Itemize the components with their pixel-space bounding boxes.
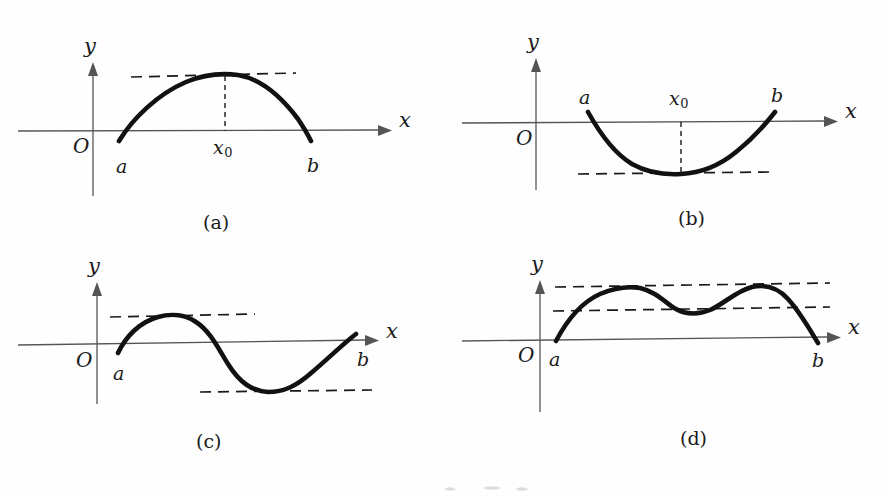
panel-a-critical-sub: 0 [224, 145, 232, 160]
panel-c-endpoint-b-label: b [357, 350, 369, 369]
panel-b-graphics [462, 58, 838, 190]
panel-a-origin-label: O [73, 136, 89, 156]
panel-b-x-axis-label: x [845, 101, 857, 122]
panel-d-x-axis [462, 337, 827, 341]
panel-c-x-axis-label: x [386, 321, 398, 342]
figure-vector-layer [0, 0, 887, 492]
panel-b-tangent-line [578, 172, 769, 174]
panel-a-y-axis-arrow [88, 62, 98, 76]
panel-c-graphics [18, 282, 379, 404]
panel-a-endpoint-b-label: b [307, 156, 319, 175]
panel-b-x-axis [462, 121, 824, 123]
panel-d-y-axis-arrow [535, 280, 545, 294]
panel-a-critical-x: x [213, 136, 224, 158]
panel-a-x-axis-arrow [378, 125, 392, 136]
panel-b-x-axis-arrow [824, 116, 838, 127]
panel-c-y-axis-arrow [92, 282, 102, 296]
panel-c-x-axis-arrow [365, 335, 379, 346]
panel-b-caption: (b) [678, 209, 705, 228]
panel-a-x-axis-label: x [399, 110, 411, 131]
panel-d-curve [556, 286, 818, 343]
panel-d-endpoint-a-label: a [549, 350, 560, 369]
panel-c-curve [118, 315, 356, 392]
panel-d-upper-tangent-line [555, 283, 830, 287]
panel-c-x-axis [18, 340, 365, 345]
panel-c-y-axis-label: y [88, 256, 100, 277]
panel-d-endpoint-b-label: b [812, 351, 824, 370]
panel-b-critical-sub: 0 [680, 96, 688, 111]
page-edge-artifact [430, 484, 550, 492]
panel-a-y-axis-label: y [84, 36, 96, 57]
panel-d-x-axis-label: x [848, 317, 860, 338]
panel-a-critical-point-label: x0 [213, 138, 233, 159]
panel-c-lower-tangent-line [200, 390, 372, 392]
panel-a-x-axis [18, 130, 378, 131]
panel-c-upper-tangent-line [110, 314, 255, 317]
panel-b-endpoint-b-label: b [771, 86, 783, 105]
panel-b-y-axis-arrow [531, 58, 541, 72]
panel-c-origin-label: O [76, 350, 92, 370]
panel-b-critical-point-label: x0 [669, 89, 689, 110]
panel-c-caption: (c) [196, 432, 221, 451]
panel-c-endpoint-a-label: a [113, 364, 124, 383]
panel-d-origin-label: O [518, 345, 534, 365]
figure-root: y x O a b x0 (a) y x O a b x0 (b) y x O … [0, 0, 887, 492]
panel-d-y-axis-label: y [531, 254, 543, 275]
panel-a-curve [119, 74, 311, 141]
panel-d-lower-tangent-line [553, 307, 830, 311]
panel-b-y-axis-label: y [527, 32, 539, 53]
panel-a-graphics [18, 62, 392, 196]
panel-d-x-axis-arrow [827, 332, 841, 343]
panel-a-tangent-line [131, 73, 296, 77]
panel-b-endpoint-a-label: a [579, 88, 590, 107]
panel-b-origin-label: O [516, 128, 532, 148]
panel-a-caption: (a) [203, 213, 229, 232]
panel-a-endpoint-a-label: a [116, 157, 127, 176]
panel-b-curve [588, 112, 775, 174]
panel-b-critical-x: x [669, 87, 680, 109]
panel-d-caption: (d) [680, 429, 707, 448]
